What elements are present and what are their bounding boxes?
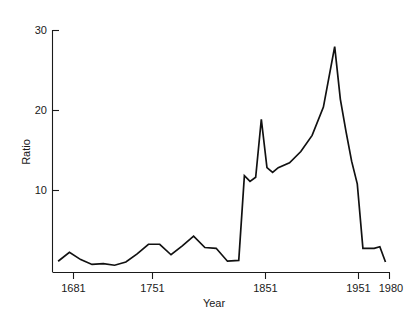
y-axis-title: Ratio xyxy=(20,139,32,165)
x-tick-label-1951: 1951 xyxy=(346,282,370,294)
chart-figure: 10 20 30 1681 1751 1851 1951 1980 Year R… xyxy=(0,0,418,316)
x-tick-label-1980: 1980 xyxy=(379,282,403,294)
data-series-ratio xyxy=(58,47,385,266)
y-tick-label-30: 30 xyxy=(35,24,47,36)
line-chart-canvas: 10 20 30 1681 1751 1851 1951 1980 Year R… xyxy=(0,0,418,316)
y-tick-label-10: 10 xyxy=(35,184,47,196)
y-tick-label-20: 20 xyxy=(35,104,47,116)
x-axis-title: Year xyxy=(203,297,226,309)
y-tick-marks xyxy=(53,31,60,191)
x-tick-label-1851: 1851 xyxy=(253,282,277,294)
x-tick-marks xyxy=(74,273,390,280)
x-tick-label-1681: 1681 xyxy=(61,282,85,294)
x-tick-label-1751: 1751 xyxy=(140,282,164,294)
